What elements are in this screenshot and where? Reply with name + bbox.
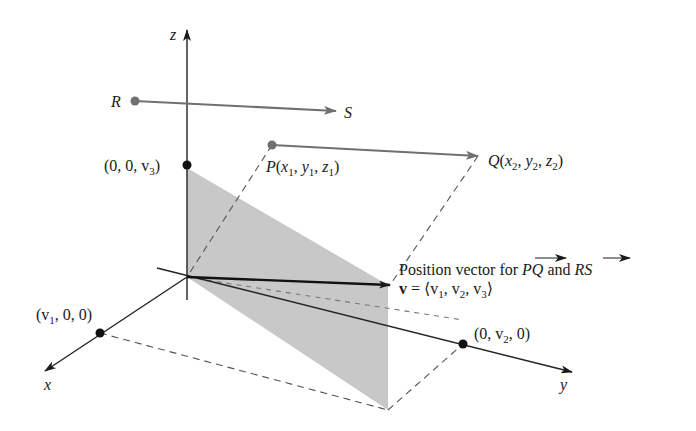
label-r: R (110, 93, 121, 110)
y-axis-label: y (558, 376, 568, 394)
y-intercept-label: (0, v2, 0) (474, 325, 530, 345)
vector-diagram: z x y R S P(x1, y1, z1) Q(x2, y2, z2) (0… (0, 0, 696, 431)
point-r (131, 97, 140, 106)
position-vector-annotation: Position vector for PQ and RS v = ⟨v1, v… (399, 258, 630, 300)
x-intercept-label: (v1, 0, 0) (36, 306, 92, 326)
annotation-line1: Position vector for PQ and RS (399, 261, 592, 278)
vector-rs (135, 101, 336, 111)
z-intercept-label: (0, 0, v3) (104, 157, 160, 177)
vector-pq (272, 145, 478, 156)
label-q: Q(x2, y2, z2) (488, 152, 563, 172)
x-axis-label: x (43, 376, 51, 393)
x-axis (45, 277, 187, 371)
z-axis-label: z (169, 26, 177, 43)
label-p: P(x1, y1, z1) (265, 158, 339, 178)
label-s: S (344, 104, 352, 121)
annotation-line2: v = ⟨v1, v2, v3⟩ (399, 280, 493, 300)
x-intercept-dot (96, 329, 105, 338)
z-intercept-dot (183, 161, 192, 170)
shaded-plane (187, 168, 388, 410)
y-intercept-dot (459, 340, 468, 349)
point-p (268, 141, 277, 150)
